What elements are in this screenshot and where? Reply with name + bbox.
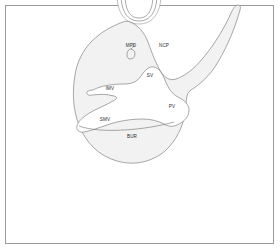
figure-root: MPD NCP SV IMV SMV PV BUR [0, 0, 280, 250]
label-sv: SV [147, 73, 154, 78]
duodenum-arc-shape [117, 0, 161, 24]
anatomical-diagram: MPD NCP SV IMV SMV PV BUR [0, 0, 280, 250]
label-mpd: MPD [126, 43, 137, 48]
label-smv: SMV [100, 117, 111, 122]
label-bur: BUR [127, 134, 138, 139]
label-pv: PV [169, 104, 176, 109]
label-imv: IMV [106, 86, 115, 91]
label-ncp: NCP [159, 43, 169, 48]
